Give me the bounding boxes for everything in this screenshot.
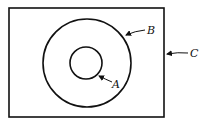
label-a: A — [111, 78, 120, 91]
label-c: C — [190, 47, 199, 60]
set-b-circle — [43, 19, 131, 107]
set-a-circle — [70, 47, 102, 79]
label-b: B — [146, 24, 155, 37]
venn-diagram: B C A — [0, 0, 209, 122]
set-c-rectangle — [9, 8, 164, 117]
arrow-a — [99, 76, 112, 82]
arrow-b — [126, 30, 145, 35]
arrow-c — [167, 53, 188, 54]
